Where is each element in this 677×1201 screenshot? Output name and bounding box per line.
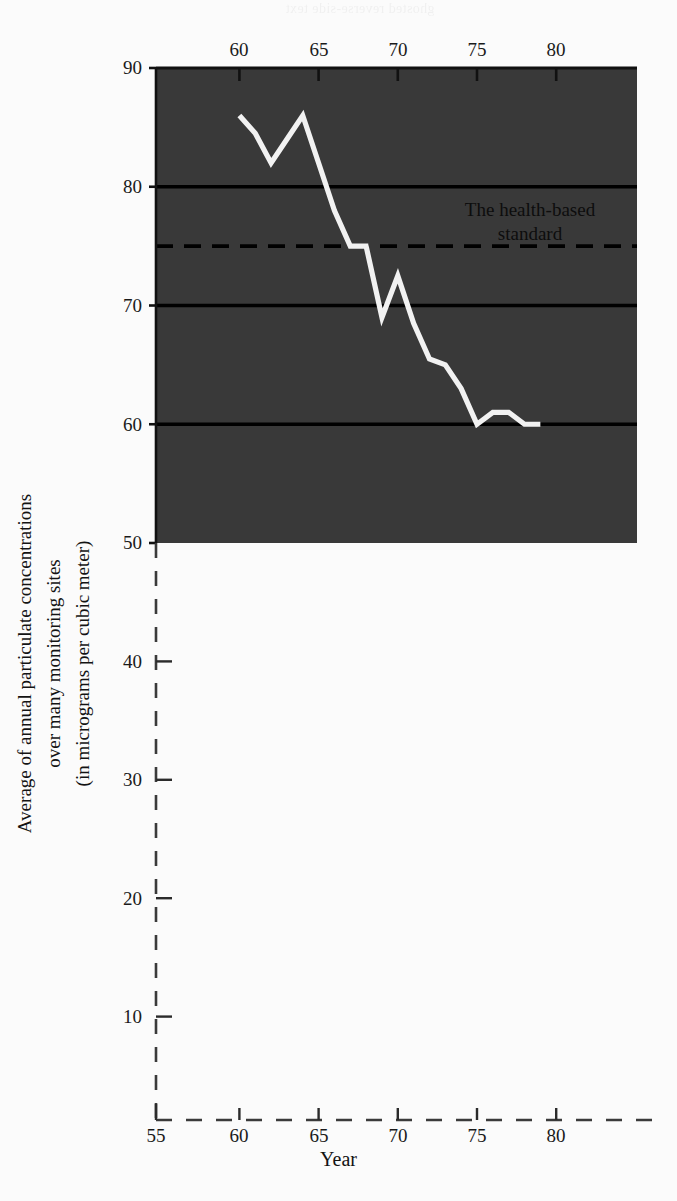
y-tick-label-60: 60 <box>96 415 142 434</box>
y-tick-label-90: 90 <box>96 58 142 77</box>
x-tick-label-60: 60 <box>216 1126 262 1145</box>
y-tick-label-40: 40 <box>96 652 142 671</box>
y-axis-title: Average of annual particulate concentrat… <box>10 344 97 984</box>
x-tick-label-65: 65 <box>296 1126 342 1145</box>
x-top-tick-label-60: 60 <box>216 40 262 59</box>
health-standard-annotation: The health-based standard <box>430 198 630 246</box>
x-top-tick-label-70: 70 <box>375 40 421 59</box>
y-tick-label-30: 30 <box>96 770 142 789</box>
x-top-tick-label-75: 75 <box>454 40 500 59</box>
x-top-tick-label-80: 80 <box>533 40 579 59</box>
y-tick-label-10: 10 <box>96 1007 142 1026</box>
y-axis-title-line-2: over many monitoring sites <box>39 344 68 984</box>
x-tick-label-70: 70 <box>375 1126 421 1145</box>
chart-left-axis-solid <box>149 68 156 543</box>
chart-figure: 90 80 70 60 50 40 30 20 10 60 65 70 75 8… <box>0 0 677 1201</box>
x-axis-title: Year <box>0 1148 677 1171</box>
y-tick-label-50: 50 <box>96 533 142 552</box>
x-top-tick-label-65: 65 <box>296 40 342 59</box>
x-tick-label-75: 75 <box>454 1126 500 1145</box>
y-tick-label-80: 80 <box>96 177 142 196</box>
chart-bottom-axis <box>156 1104 660 1120</box>
chart-left-axis-dashed <box>156 543 172 1120</box>
x-tick-label-55: 55 <box>133 1126 179 1145</box>
y-axis-title-line-1: Average of annual particulate concentrat… <box>10 344 39 984</box>
annotation-line-2: standard <box>430 222 630 246</box>
annotation-line-1: The health-based <box>430 198 630 222</box>
y-tick-label-20: 20 <box>96 889 142 908</box>
y-axis-title-line-3: (in micrograms per cubic meter) <box>68 344 97 984</box>
x-tick-label-80: 80 <box>533 1126 579 1145</box>
y-tick-label-70: 70 <box>96 296 142 315</box>
